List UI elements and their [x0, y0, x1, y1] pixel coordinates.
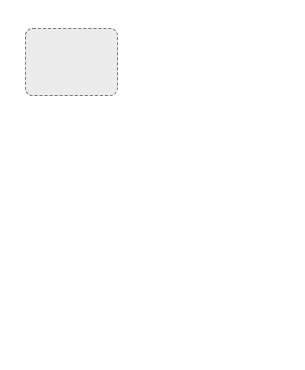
basic-simulator-box	[25, 28, 118, 96]
